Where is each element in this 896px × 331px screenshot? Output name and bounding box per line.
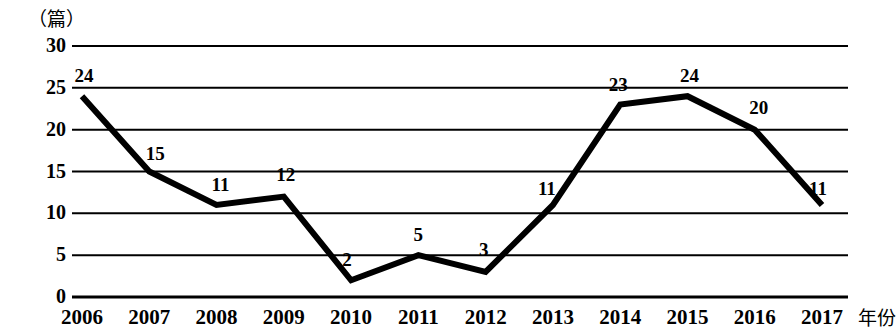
y-tick-20: 20 (20, 119, 66, 139)
point-label-2016: 20 (739, 98, 779, 118)
point-label-2015: 24 (669, 66, 709, 86)
x-tick-2007: 2007 (116, 306, 182, 328)
x-tick-2009: 2009 (251, 306, 317, 328)
y-tick-5: 5 (20, 244, 66, 264)
gridlines-group (72, 46, 848, 297)
x-tick-2012: 2012 (453, 306, 519, 328)
data-series-line (82, 96, 822, 280)
y-tick-15: 15 (20, 161, 66, 181)
x-tick-2011: 2011 (385, 306, 451, 328)
point-label-2008: 11 (201, 175, 241, 195)
point-label-2014: 23 (598, 75, 638, 95)
x-tick-2006: 2006 (49, 306, 115, 328)
point-label-2017: 11 (798, 179, 838, 199)
x-axis-title: 年份 (858, 307, 896, 329)
y-tick-25: 25 (20, 77, 66, 97)
point-label-2009: 12 (266, 165, 306, 185)
x-tick-2016: 2016 (722, 306, 788, 328)
point-label-2007: 15 (135, 144, 175, 164)
y-axis-unit-label: （篇） (28, 9, 85, 29)
point-label-2013: 11 (527, 179, 567, 199)
y-tick-0: 0 (20, 286, 66, 306)
point-label-2011: 5 (398, 225, 438, 245)
point-label-2006: 24 (64, 66, 104, 86)
x-tick-2010: 2010 (318, 306, 384, 328)
chart-plot-area (0, 0, 896, 331)
x-tick-2017: 2017 (789, 306, 855, 328)
x-tick-2008: 2008 (184, 306, 250, 328)
line-chart: （篇） 302520151050 20062007200820092010201… (0, 0, 896, 331)
point-label-2012: 3 (464, 240, 504, 260)
x-tick-2013: 2013 (520, 306, 586, 328)
x-tick-2015: 2015 (654, 306, 720, 328)
y-tick-10: 10 (20, 202, 66, 222)
x-tick-2014: 2014 (587, 306, 653, 328)
point-label-2010: 2 (327, 250, 367, 270)
y-tick-30: 30 (20, 35, 66, 55)
